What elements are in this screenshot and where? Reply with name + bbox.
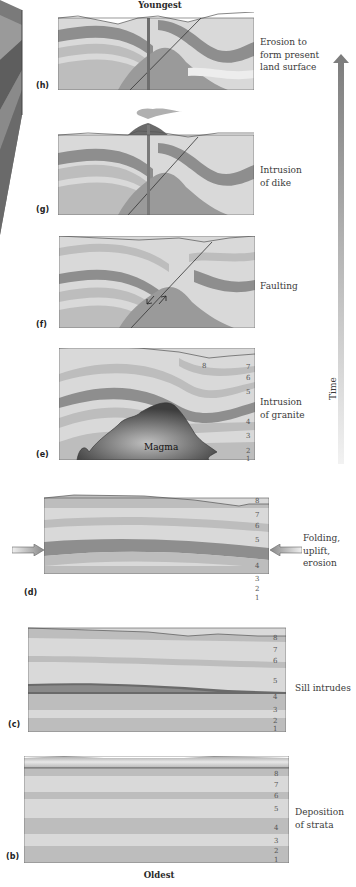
panel-d-stratum-4: 4: [255, 562, 259, 570]
compression-arrow-left: [12, 544, 44, 556]
panel-b-stratum-1: 1: [274, 856, 278, 864]
panel-e-stratum-5: 5: [246, 388, 250, 396]
magma-label: Magma: [144, 442, 178, 452]
panel-c-stratum-4: 4: [273, 693, 277, 701]
panel-g-label: (g): [36, 205, 49, 214]
panel-h-label: (h): [36, 81, 49, 90]
panel-b-stratum-2: 2: [274, 847, 278, 855]
panel-c-stratum-3: 3: [273, 706, 277, 714]
panel-c-stratum-8: 8: [273, 634, 277, 642]
panel-d-stratum-6: 6: [255, 522, 259, 530]
panel-d-stratum-7: 7: [255, 511, 259, 519]
panel-e-label: (e): [36, 450, 49, 459]
panel-b-stratum-4: 4: [274, 824, 278, 832]
panel-g-cross-section: [58, 105, 254, 215]
title-youngest: Youngest: [130, 0, 190, 10]
panel-c-caption: Sill intrudes: [295, 682, 351, 695]
panel-d-cross-section: [44, 492, 269, 574]
panel-b-label: (b): [6, 852, 19, 861]
time-arrow: [333, 54, 349, 464]
panel-d-stratum-3: 3: [255, 575, 259, 583]
panel-e-stratum-8: 8: [202, 362, 206, 370]
panel-e-stratum-4: 4: [246, 418, 250, 426]
panel-c-stratum-2: 2: [273, 717, 277, 725]
panel-b-stratum-8: 8: [274, 770, 278, 778]
panel-c-stratum-7: 7: [273, 646, 277, 654]
panel-e-caption: Intrusion of granite: [260, 396, 305, 421]
panel-e-stratum-2: 2: [246, 447, 250, 455]
panel-e-stratum-3: 3: [246, 432, 250, 440]
panel-d-stratum-2: 2: [255, 585, 259, 593]
panel-d-stratum-1: 1: [255, 594, 259, 602]
panel-f-cross-section: [59, 236, 255, 328]
panel-b-stratum-6: 6: [274, 792, 278, 800]
panel-e-stratum-7: 7: [246, 363, 250, 371]
panel-c-cross-section: [28, 626, 286, 732]
panel-e-stratum-6: 6: [246, 374, 250, 382]
panel-c-stratum-5: 5: [273, 677, 277, 685]
panel-d-label: (d): [24, 588, 37, 597]
panel-d-caption: Folding, uplift, erosion: [303, 532, 340, 570]
panel-b-stratum-5: 5: [274, 805, 278, 813]
title-oldest: Oldest: [129, 870, 189, 880]
panel-f-label: (f): [36, 320, 47, 329]
panel-c-label: (c): [8, 720, 20, 729]
panel-c-stratum-1: 1: [273, 725, 277, 733]
panel-c-stratum-6: 6: [273, 657, 277, 665]
panel-b-cross-section: [24, 756, 289, 863]
panel-b-caption: Deposition of strata: [295, 806, 344, 831]
panel-f-caption: Faulting: [260, 280, 298, 293]
panel-e-stratum-1: 1: [246, 455, 250, 463]
rock-block-illustration: [0, 0, 26, 235]
panel-b-stratum-3: 3: [274, 837, 278, 845]
compression-arrow-right: [270, 544, 302, 556]
panel-d-stratum-5: 5: [255, 536, 259, 544]
panel-b-stratum-7: 7: [274, 781, 278, 789]
panel-g-caption: Intrusion of dike: [260, 164, 302, 189]
panel-h-cross-section: [58, 12, 254, 90]
panel-d-stratum-8: 8: [255, 497, 259, 505]
time-label: Time: [327, 377, 340, 400]
panel-h-caption: Erosion to form present land surface: [260, 36, 319, 74]
